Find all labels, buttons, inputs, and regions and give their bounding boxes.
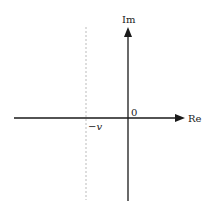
complex-plane-diagram: Im Re 0 −v (0, 0, 211, 211)
real-axis-arrow-icon (175, 114, 185, 122)
imaginary-axis-label: Im (122, 14, 136, 25)
minus-sign: − (88, 121, 96, 132)
imaginary-axis-arrow-icon (124, 27, 132, 37)
minus-v-label: −v (88, 121, 102, 132)
v-symbol: v (96, 121, 102, 132)
origin-label: 0 (131, 107, 137, 118)
real-axis-label: Re (188, 113, 202, 124)
